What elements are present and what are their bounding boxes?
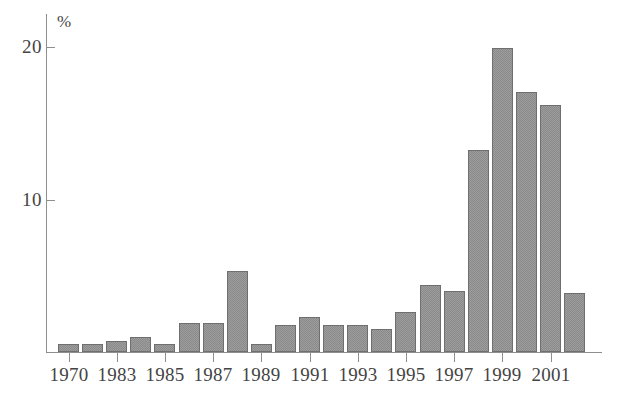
x-axis-tick <box>310 353 311 362</box>
bar <box>371 329 392 352</box>
x-axis-line <box>46 352 602 353</box>
bar <box>420 285 441 352</box>
x-axis-tick <box>261 353 262 362</box>
bar <box>251 344 272 352</box>
x-axis-tick <box>358 353 359 362</box>
bar <box>492 48 513 353</box>
x-axis-tick <box>165 353 166 362</box>
bar <box>275 325 296 352</box>
bar <box>299 317 320 352</box>
bar <box>323 325 344 352</box>
bar <box>203 323 224 352</box>
x-axis-tick <box>551 353 552 362</box>
bar <box>179 323 200 352</box>
bar <box>58 344 79 352</box>
bar <box>444 291 465 352</box>
x-axis-tick <box>454 353 455 362</box>
bar <box>564 293 585 352</box>
bar <box>347 325 368 352</box>
x-axis-tick-label: 2001 <box>521 364 581 385</box>
bar <box>395 312 416 352</box>
y-axis-tick-label: 20 <box>0 37 42 56</box>
bar <box>106 341 127 352</box>
bar <box>227 271 248 352</box>
bar <box>154 344 175 352</box>
x-axis-tick <box>213 353 214 362</box>
bar <box>516 92 537 352</box>
bar <box>130 337 151 352</box>
bar <box>540 105 561 352</box>
plot-area <box>46 14 602 352</box>
x-axis-tick <box>406 353 407 362</box>
x-axis-tick <box>502 353 503 362</box>
y-axis-tick-label: 10 <box>0 190 42 209</box>
bar-chart: % 1020 197019831985198719891991199319951… <box>0 0 618 394</box>
bar <box>468 150 489 352</box>
bar <box>82 344 103 352</box>
x-axis-tick <box>117 353 118 362</box>
x-axis-tick <box>69 353 70 362</box>
